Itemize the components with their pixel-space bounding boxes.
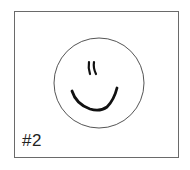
figure-label: #2	[22, 131, 42, 151]
left-eye-mark	[89, 62, 90, 74]
face-outline	[54, 38, 144, 128]
right-eye-mark	[94, 62, 96, 74]
smile-mouth	[72, 88, 117, 110]
